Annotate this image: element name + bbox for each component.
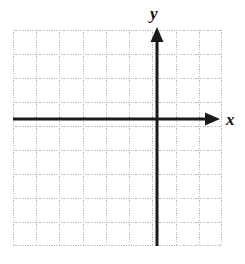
coordinate-plane-figure: y x <box>0 0 245 264</box>
y-axis-label: y <box>150 5 158 22</box>
x-axis-label: x <box>226 111 235 128</box>
grid-area <box>13 30 222 246</box>
grid-lines <box>13 30 222 246</box>
